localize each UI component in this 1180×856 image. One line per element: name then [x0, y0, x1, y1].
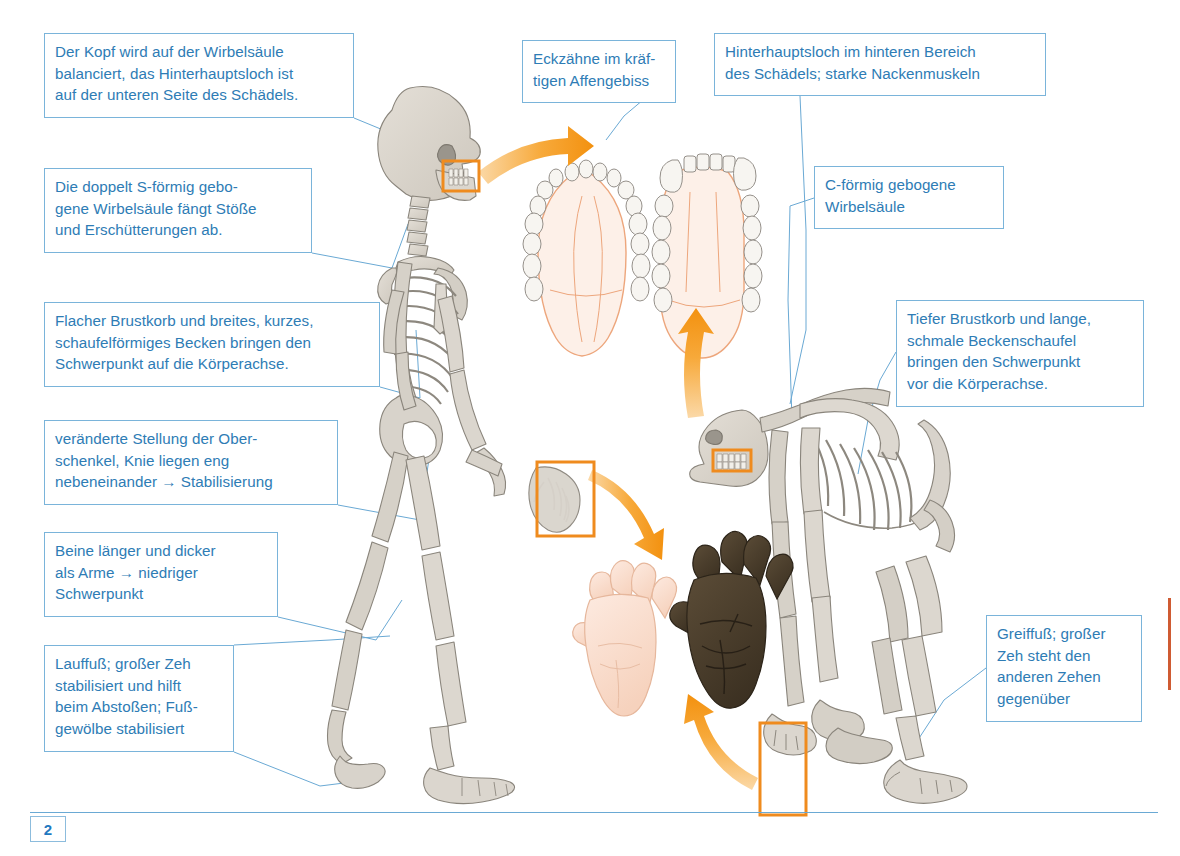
- arrow-ape-foot-up: [684, 694, 758, 790]
- callout-s-shaped-spine: Die doppelt S-förmig gebo- gene Wirbelsä…: [44, 168, 312, 253]
- diagram-page: Der Kopf wird auf der Wirbelsäule balanc…: [0, 0, 1180, 856]
- callout-thigh-position: veränderte Stellung der Ober- schenkel, …: [44, 420, 338, 505]
- callout-c-shaped-spine: C-förmig gebogene Wirbelsäule: [814, 166, 1004, 229]
- human-hand: [573, 561, 677, 716]
- ape-hand: [670, 531, 793, 708]
- callout-foramen-magnum-rear: Hinterhauptsloch im hinteren Bereich des…: [714, 33, 1046, 96]
- callout-head-balance: Der Kopf wird auf der Wirbelsäule balanc…: [44, 33, 354, 118]
- callout-legs-longer: Beine länger und dicker als Arme → niedr…: [44, 532, 278, 617]
- callout-deep-ribcage: Tiefer Brustkorb und lange, schmale Beck…: [896, 300, 1144, 407]
- callout-walking-foot: Lauffuß; großer Zeh stabilisiert und hil…: [44, 645, 234, 752]
- human-palate: [523, 160, 650, 356]
- right-edge-marker: [1168, 598, 1171, 690]
- page-number: 2: [30, 816, 66, 842]
- callout-flat-ribcage-pelvis: Flacher Brustkorb und breites, kurzes, s…: [44, 302, 380, 387]
- footer-rule: [30, 812, 1158, 813]
- callout-grasping-foot: Greiffuß; großer Zeh steht den anderen Z…: [986, 615, 1142, 722]
- arrow-to-hands: [588, 470, 664, 560]
- callout-canine-teeth: Eckzähne im kräf- tigen Affengebiss: [522, 40, 676, 103]
